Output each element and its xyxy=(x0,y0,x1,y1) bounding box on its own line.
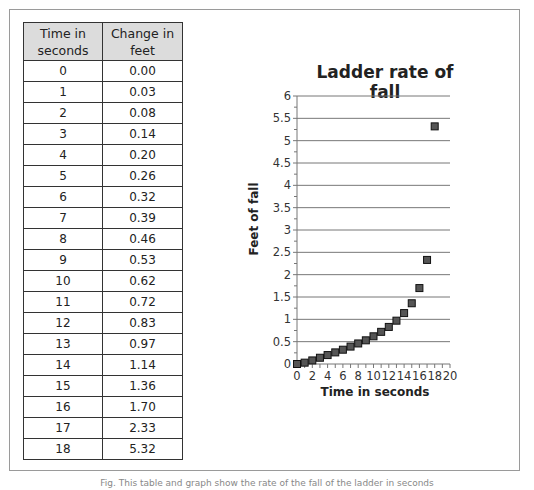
y-tick-label: 0 xyxy=(284,357,291,371)
y-tick-label: 6 xyxy=(284,89,291,103)
data-point xyxy=(347,343,354,350)
data-point xyxy=(316,354,323,361)
gridlines xyxy=(297,96,450,342)
data-point xyxy=(408,300,415,307)
x-tick-label: 16 xyxy=(412,369,427,383)
data-points xyxy=(294,123,439,368)
data-point xyxy=(431,123,438,130)
data-point xyxy=(339,346,346,353)
y-tick-label: 3.5 xyxy=(273,201,291,215)
y-tick-label: 5 xyxy=(284,134,291,148)
data-point xyxy=(385,323,392,330)
y-tick-label: 2.5 xyxy=(273,245,291,259)
data-point xyxy=(362,337,369,344)
y-tick-label: 5.5 xyxy=(273,111,291,125)
x-tick-label: 20 xyxy=(443,369,458,383)
data-point xyxy=(324,352,331,359)
y-tick-label: 2 xyxy=(284,268,291,282)
y-tick-label: 0.5 xyxy=(273,335,291,349)
data-point xyxy=(301,359,308,366)
data-point xyxy=(294,361,301,368)
data-point xyxy=(370,333,377,340)
data-point xyxy=(416,285,423,292)
data-point xyxy=(401,310,408,317)
data-point xyxy=(309,357,316,364)
y-tick-label: 1.5 xyxy=(273,290,291,304)
y-tick-label: 3 xyxy=(284,223,291,237)
x-tick-label: 2 xyxy=(309,369,316,383)
data-point xyxy=(424,256,431,263)
x-tick-label: 18 xyxy=(427,369,442,383)
x-tick-label: 12 xyxy=(381,369,396,383)
figure-caption: Fig. This table and graph show the rate … xyxy=(0,478,534,488)
x-tick-label: 14 xyxy=(397,369,412,383)
y-tick-label: 4 xyxy=(284,178,291,192)
data-point xyxy=(355,340,362,347)
x-tick-label: 10 xyxy=(366,369,381,383)
data-point xyxy=(393,317,400,324)
x-tick-label: 0 xyxy=(293,369,300,383)
y-tick-label: 1 xyxy=(284,312,291,326)
x-tick-label: 8 xyxy=(355,369,362,383)
x-tick-label: 4 xyxy=(324,369,331,383)
data-point xyxy=(332,349,339,356)
y-tick-label: 4.5 xyxy=(273,156,291,170)
data-point xyxy=(378,328,385,335)
scatter-plot: 00.511.522.533.544.555.56024681012141618… xyxy=(0,0,534,490)
x-tick-label: 6 xyxy=(339,369,346,383)
